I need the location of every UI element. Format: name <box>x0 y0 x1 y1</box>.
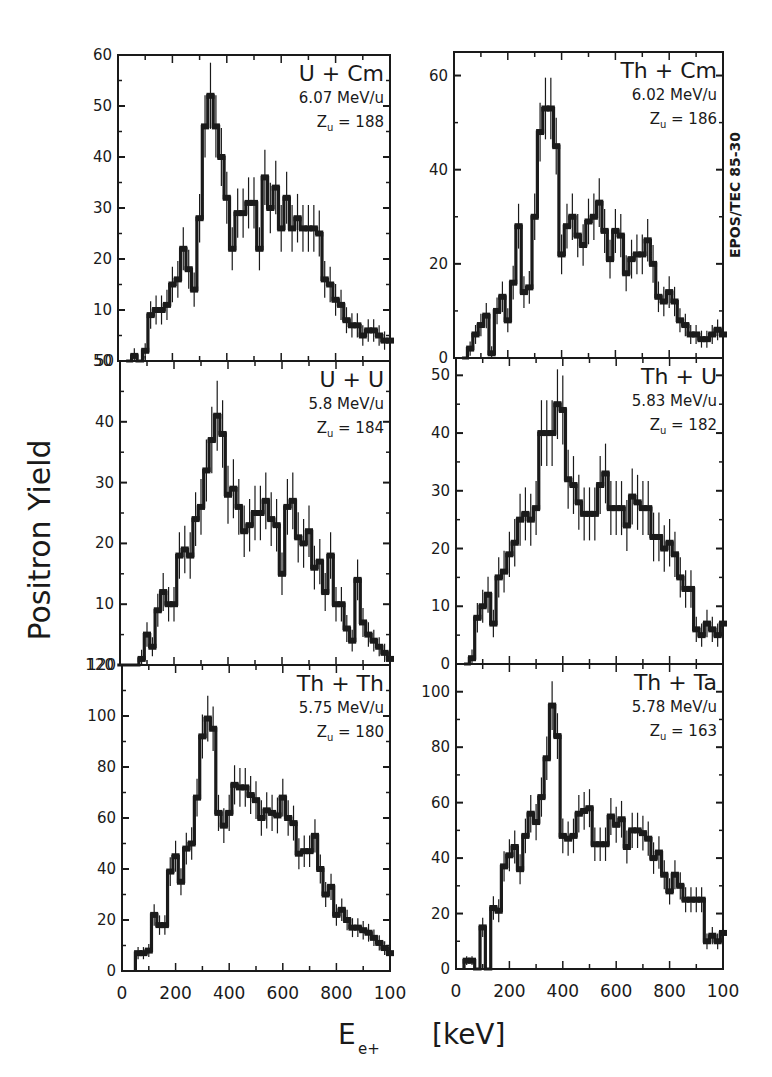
data-point <box>154 607 162 613</box>
data-point <box>375 644 383 650</box>
data-point <box>472 331 480 337</box>
data-point <box>273 522 281 528</box>
data-point <box>229 486 237 492</box>
data-point <box>591 511 599 517</box>
data-point <box>719 621 727 627</box>
data-point <box>482 313 490 319</box>
data-point <box>628 494 636 500</box>
y-tick-label: 100 <box>421 683 450 701</box>
data-point <box>644 505 652 511</box>
data-point <box>192 516 200 522</box>
data-point <box>639 830 647 836</box>
data-point <box>279 795 287 801</box>
y-tick-label: 20 <box>431 905 450 923</box>
data-point <box>321 589 329 595</box>
x-tick-label: 100 <box>707 981 739 1001</box>
data-point <box>558 251 566 257</box>
data-point <box>708 933 716 939</box>
x-tick-label: 400 <box>213 983 245 1003</box>
data-point <box>477 322 485 328</box>
x-tick-label: 800 <box>320 983 352 1003</box>
data-point <box>247 792 255 798</box>
data-point <box>552 143 560 149</box>
panel-title: Th + Ta <box>633 670 717 695</box>
data-point <box>601 228 609 234</box>
data-point <box>266 205 274 211</box>
y-tick-label: 0 <box>438 349 448 367</box>
data-point <box>568 214 576 220</box>
data-point <box>498 294 506 300</box>
data-point <box>386 338 394 344</box>
x-axis-label: E e+ [keV] <box>338 1018 505 1058</box>
data-point <box>305 528 313 534</box>
y-tick-label: 10 <box>431 597 450 615</box>
data-point <box>638 251 646 257</box>
data-point <box>256 510 264 516</box>
data-point <box>505 551 513 557</box>
data-point <box>500 569 508 575</box>
data-point <box>655 534 663 540</box>
data-point <box>607 814 615 820</box>
data-point <box>622 270 630 276</box>
data-point <box>644 237 652 243</box>
data-point <box>220 823 228 829</box>
data-point <box>468 655 476 661</box>
y-tick-label: 60 <box>93 46 112 64</box>
data-point <box>521 833 529 839</box>
panels-group: 50102030405060U + Cm6.07 MeV/uZu = 18802… <box>85 46 739 1003</box>
data-point <box>163 302 171 308</box>
y-tick-label: 10 <box>95 595 114 613</box>
data-point <box>698 632 706 638</box>
data-point <box>617 233 625 239</box>
data-point <box>208 437 216 443</box>
data-point <box>267 516 275 522</box>
data-point <box>575 499 583 505</box>
data-point <box>500 863 508 869</box>
y-tick-label: 50 <box>93 97 112 115</box>
y-tick-label: 60 <box>97 809 116 827</box>
data-point <box>197 504 205 510</box>
data-point <box>310 565 318 571</box>
data-point <box>495 574 503 580</box>
data-point <box>595 200 603 206</box>
data-point <box>159 589 167 595</box>
y-tick-label: 0 <box>106 962 116 980</box>
data-point <box>223 195 231 201</box>
data-point <box>634 499 642 505</box>
data-point <box>337 302 345 308</box>
data-point <box>532 819 540 825</box>
data-point <box>209 726 217 732</box>
panel-zu: Zu = 186 <box>650 110 717 130</box>
panel-zu: Zu = 184 <box>317 419 384 439</box>
y-tick-label: 0 <box>440 960 450 978</box>
data-point <box>665 289 673 295</box>
data-point <box>692 626 700 632</box>
data-point <box>370 935 378 941</box>
y-tick-label: 50 <box>95 352 114 370</box>
x-tick-label: 400 <box>547 981 579 1001</box>
data-point <box>370 638 378 644</box>
data-point <box>217 154 225 160</box>
data-point <box>623 522 631 528</box>
data-point <box>527 517 535 523</box>
data-point <box>198 733 206 739</box>
data-point <box>261 174 269 180</box>
y-tick-label: 60 <box>429 67 448 85</box>
x-tick-label: 600 <box>267 983 299 1003</box>
data-point <box>348 638 356 644</box>
x-axis-unit: [keV] <box>432 1018 505 1051</box>
y-tick-label: 20 <box>97 911 116 929</box>
data-point <box>300 540 308 546</box>
data-point <box>294 534 302 540</box>
data-point <box>214 810 222 816</box>
data-point <box>666 540 674 546</box>
figure-canvas: 50102030405060U + Cm6.07 MeV/uZu = 18802… <box>0 0 772 1077</box>
data-point <box>181 546 189 552</box>
panel-energy: 5.8 MeV/u <box>308 395 384 413</box>
data-point <box>655 850 663 856</box>
data-point <box>166 869 174 875</box>
panel-energy: 6.07 MeV/u <box>299 89 384 107</box>
data-point <box>204 716 212 722</box>
data-point <box>676 883 684 889</box>
data-point <box>148 644 156 650</box>
